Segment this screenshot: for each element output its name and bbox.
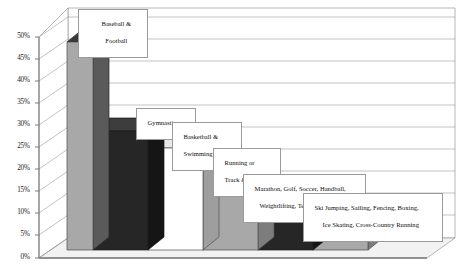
- label-marathon-group-line1: Marathon, Golf, Soccer, Handball,: [255, 185, 346, 192]
- label-ski-jumping-group-line2: Ice Skating, Cross-Country Running: [315, 221, 419, 229]
- y-tick-50: 50%: [4, 32, 30, 40]
- chart-left-wall: [39, 8, 68, 258]
- y-tick-5: 5%: [4, 230, 30, 238]
- y-tick-35: 35%: [4, 98, 30, 106]
- label-basketball-swimming-line2: Swimming: [184, 150, 213, 157]
- bar-baseball-football: [67, 29, 109, 250]
- y-tick-40: 40%: [4, 76, 30, 84]
- label-ski-jumping-group: Ski Jumping, Sailing, Fencing, Boxing, I…: [303, 193, 443, 242]
- label-baseball-football: Baseball & Football: [78, 9, 148, 58]
- y-tick-10: 10%: [4, 208, 30, 216]
- label-running-track-line1: Running or: [225, 159, 255, 166]
- y-tick-15: 15%: [4, 186, 30, 194]
- label-baseball-football-line2: Football: [105, 37, 127, 44]
- label-baseball-football-line1: Baseball &: [102, 20, 131, 27]
- label-basketball-swimming-line1: Basketball &: [184, 133, 219, 140]
- y-tick-25: 25%: [4, 142, 30, 150]
- y-tick-20: 20%: [4, 164, 30, 172]
- y-tick-0: 0%: [4, 253, 30, 261]
- bar-chart: 50% 45% 40% 35% 30% 25% 20% 15% 10% 5% 0…: [0, 0, 459, 275]
- label-ski-jumping-group-line1: Ski Jumping, Sailing, Fencing, Boxing,: [315, 204, 419, 211]
- y-tick-30: 30%: [4, 120, 30, 128]
- chart-y-axis: [35, 37, 39, 258]
- y-tick-45: 45%: [4, 54, 30, 62]
